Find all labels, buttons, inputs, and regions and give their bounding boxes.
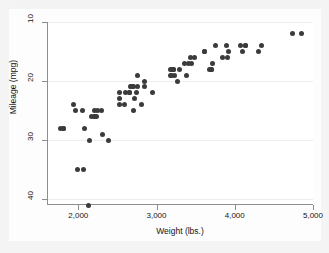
x-tick-label: 2,000 bbox=[58, 211, 98, 220]
scatter-point bbox=[299, 31, 304, 36]
gridline-y bbox=[48, 81, 313, 82]
scatter-point bbox=[100, 132, 105, 137]
scatter-point bbox=[168, 73, 173, 78]
scatter-point bbox=[134, 90, 139, 95]
scatter-point bbox=[132, 96, 137, 101]
scatter-point bbox=[122, 102, 127, 107]
scatter-point bbox=[220, 55, 225, 60]
scatter-point bbox=[142, 79, 147, 84]
scatter-point bbox=[106, 138, 111, 143]
scatter-point bbox=[240, 49, 245, 54]
scatter-point bbox=[86, 203, 91, 208]
scatter-point bbox=[58, 126, 63, 131]
plot-area bbox=[47, 22, 313, 205]
scatter-point bbox=[188, 55, 193, 60]
scatter-point bbox=[150, 90, 155, 95]
y-axis-title: Mileage (mpg) bbox=[8, 60, 18, 114]
scatter-point bbox=[87, 138, 92, 143]
y-tick-label: 40 bbox=[26, 191, 48, 200]
scatter-point bbox=[243, 43, 248, 48]
scatter-point bbox=[142, 84, 147, 89]
scatter-point bbox=[256, 49, 261, 54]
scatter-point bbox=[135, 73, 140, 78]
x-tick-label: 5,000 bbox=[293, 211, 329, 220]
scatter-point bbox=[117, 96, 122, 101]
page-margin-bottom bbox=[0, 241, 329, 253]
scatter-point bbox=[226, 49, 231, 54]
x-tick-label: 4,000 bbox=[215, 211, 255, 220]
x-tick bbox=[78, 205, 79, 210]
scatter-point bbox=[177, 67, 182, 72]
x-tick bbox=[235, 205, 236, 210]
scatter-point bbox=[127, 90, 132, 95]
y-tick-label: 30 bbox=[26, 132, 48, 141]
scatter-point bbox=[224, 43, 229, 48]
scatter-point bbox=[80, 108, 85, 113]
chart-figure: 10203040 2,0003,0004,0005,000 Mileage (m… bbox=[0, 0, 329, 253]
scatter-point bbox=[73, 108, 78, 113]
scatter-point bbox=[117, 102, 122, 107]
x-tick bbox=[157, 205, 158, 210]
scatter-point bbox=[213, 43, 218, 48]
scatter-point bbox=[290, 31, 295, 36]
scatter-point bbox=[175, 79, 180, 84]
y-tick-label: 10 bbox=[26, 14, 48, 23]
scatter-point bbox=[238, 43, 243, 48]
x-tick bbox=[313, 205, 314, 210]
x-tick-label: 3,000 bbox=[137, 211, 177, 220]
scatter-point bbox=[225, 55, 230, 60]
scatter-point bbox=[184, 73, 189, 78]
page-margin-left bbox=[0, 0, 9, 253]
scatter-point bbox=[117, 90, 122, 95]
scatter-point bbox=[202, 49, 207, 54]
scatter-point bbox=[259, 43, 264, 48]
y-tick-label: 20 bbox=[26, 73, 48, 82]
gridline-y bbox=[48, 199, 313, 200]
scatter-point bbox=[210, 61, 215, 66]
scatter-point bbox=[75, 167, 80, 172]
scatter-point bbox=[139, 102, 144, 107]
scatter-point bbox=[95, 108, 100, 113]
scatter-point bbox=[135, 84, 140, 89]
page-margin-top bbox=[0, 0, 329, 9]
scatter-point bbox=[209, 67, 214, 72]
scatter-point bbox=[82, 126, 87, 131]
scatter-point bbox=[71, 102, 76, 107]
x-axis-title: Weight (lbs.) bbox=[47, 226, 313, 236]
gridline-y bbox=[48, 22, 313, 23]
scatter-point bbox=[81, 167, 86, 172]
scatter-point bbox=[131, 108, 136, 113]
